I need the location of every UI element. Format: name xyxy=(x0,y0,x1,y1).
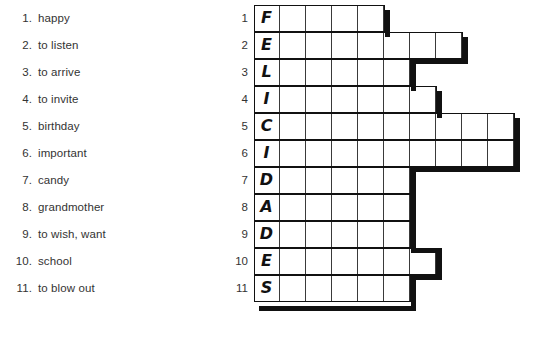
crossword-cell[interactable] xyxy=(306,5,332,32)
crossword-cell[interactable] xyxy=(280,5,306,32)
crossword-cell[interactable] xyxy=(306,113,332,140)
crossword-cell-filled[interactable]: A xyxy=(254,194,280,221)
grid-row-number-column: 1 2 3 4 5 6 7 8 9 10 11 xyxy=(222,5,248,306)
grid-row-number: 3 xyxy=(222,59,248,86)
clue-text: candy xyxy=(38,174,69,186)
crossword-cell[interactable] xyxy=(306,194,332,221)
clue-item: 4. to invite xyxy=(0,85,215,112)
clue-item: 9. to wish, want xyxy=(0,220,215,247)
crossword-cell[interactable] xyxy=(332,167,358,194)
crossword-cell[interactable] xyxy=(358,194,384,221)
worksheet-page: 1. happy 2. to listen 3. to arrive 4. to… xyxy=(0,0,552,348)
crossword-cell[interactable] xyxy=(306,140,332,167)
crossword-cell[interactable] xyxy=(332,194,358,221)
crossword-cell[interactable] xyxy=(280,248,306,275)
crossword-cell[interactable] xyxy=(306,86,332,113)
crossword-cell[interactable] xyxy=(410,32,436,59)
crossword-cell[interactable] xyxy=(280,59,306,86)
grid-shadow-edge xyxy=(411,64,416,91)
clue-text: happy xyxy=(38,12,70,24)
grid-row-number: 4 xyxy=(222,86,248,113)
crossword-cell[interactable] xyxy=(384,86,410,113)
crossword-cell[interactable] xyxy=(358,167,384,194)
crossword-cell[interactable] xyxy=(306,275,332,302)
crossword-cell[interactable] xyxy=(384,248,410,275)
crossword-cell[interactable] xyxy=(280,32,306,59)
crossword-cell[interactable] xyxy=(332,86,358,113)
crossword-cell[interactable] xyxy=(384,113,410,140)
crossword-cell[interactable] xyxy=(332,248,358,275)
clue-text: to wish, want xyxy=(38,228,106,240)
crossword-cell-filled[interactable]: D xyxy=(254,221,280,248)
crossword-cell[interactable] xyxy=(280,140,306,167)
clue-item: 10. school xyxy=(0,247,215,274)
crossword-cell[interactable] xyxy=(488,140,514,167)
crossword-cell[interactable] xyxy=(410,140,436,167)
crossword-cell[interactable] xyxy=(332,113,358,140)
clue-text: to invite xyxy=(38,93,79,105)
crossword-cell[interactable] xyxy=(358,248,384,275)
grid-shadow-edge xyxy=(437,113,442,118)
crossword-cell-filled[interactable]: S xyxy=(254,275,280,302)
crossword-cell[interactable] xyxy=(358,32,384,59)
crossword-cell-filled[interactable]: I xyxy=(254,140,280,167)
crossword-cell[interactable] xyxy=(280,167,306,194)
crossword-cell[interactable] xyxy=(384,275,410,302)
crossword-cell[interactable] xyxy=(280,86,306,113)
grid-shadow-edge xyxy=(259,306,416,311)
clue-item: 7. candy xyxy=(0,166,215,193)
grid-shadow-edge xyxy=(411,275,442,280)
crossword-cell[interactable] xyxy=(358,113,384,140)
crossword-cell[interactable] xyxy=(280,275,306,302)
crossword-cell[interactable] xyxy=(410,113,436,140)
crossword-cell[interactable] xyxy=(280,194,306,221)
crossword-cell[interactable] xyxy=(358,221,384,248)
crossword-cell[interactable] xyxy=(306,32,332,59)
crossword-cell[interactable] xyxy=(332,140,358,167)
crossword-cell-filled[interactable]: E xyxy=(254,248,280,275)
crossword-cell[interactable] xyxy=(306,59,332,86)
crossword-cell[interactable] xyxy=(306,221,332,248)
crossword-cell-filled[interactable]: F xyxy=(254,5,280,32)
crossword-cell[interactable] xyxy=(280,221,306,248)
crossword-cell-filled[interactable]: E xyxy=(254,32,280,59)
crossword-cell[interactable] xyxy=(436,140,462,167)
crossword-cell[interactable] xyxy=(462,140,488,167)
clue-text: birthday xyxy=(38,120,80,132)
crossword-cell[interactable] xyxy=(358,275,384,302)
clue-text: to arrive xyxy=(38,66,80,78)
crossword-cell[interactable] xyxy=(384,221,410,248)
clue-text: to blow out xyxy=(38,282,95,294)
clue-item: 6. important xyxy=(0,139,215,166)
crossword-cell[interactable] xyxy=(358,140,384,167)
crossword-cell-filled[interactable]: I xyxy=(254,86,280,113)
crossword-cell[interactable] xyxy=(332,221,358,248)
crossword-cell[interactable] xyxy=(332,275,358,302)
clue-item: 1. happy xyxy=(0,4,215,31)
clue-text: school xyxy=(38,255,72,267)
clue-number: 1. xyxy=(0,12,32,24)
crossword-cell[interactable] xyxy=(332,5,358,32)
crossword-cell[interactable] xyxy=(358,5,384,32)
grid-shadow-edge xyxy=(411,167,520,172)
crossword-cell[interactable] xyxy=(384,140,410,167)
crossword-cell-filled[interactable]: C xyxy=(254,113,280,140)
crossword-cell[interactable] xyxy=(436,32,462,59)
clue-item: 11. to blow out xyxy=(0,274,215,301)
crossword-cell[interactable] xyxy=(384,167,410,194)
crossword-cell[interactable] xyxy=(358,86,384,113)
crossword-cell[interactable] xyxy=(332,59,358,86)
crossword-cell[interactable] xyxy=(462,113,488,140)
crossword-cell[interactable] xyxy=(280,113,306,140)
crossword-cell[interactable] xyxy=(306,248,332,275)
crossword-cell[interactable] xyxy=(488,113,514,140)
crossword-row: D xyxy=(254,221,411,248)
crossword-cell[interactable] xyxy=(384,194,410,221)
crossword-cell[interactable] xyxy=(306,167,332,194)
clue-list: 1. happy 2. to listen 3. to arrive 4. to… xyxy=(0,0,220,348)
crossword-cell[interactable] xyxy=(358,59,384,86)
crossword-cell[interactable] xyxy=(384,59,410,86)
crossword-cell-filled[interactable]: D xyxy=(254,167,280,194)
crossword-cell[interactable] xyxy=(332,32,358,59)
crossword-cell-filled[interactable]: L xyxy=(254,59,280,86)
